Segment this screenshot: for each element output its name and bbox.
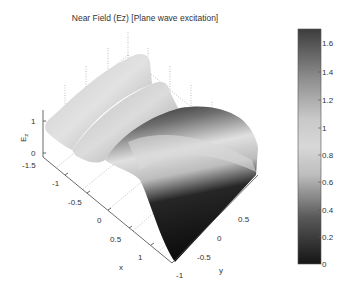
colorbar-tick-0: 0 bbox=[322, 260, 326, 269]
x-axis-label: x bbox=[119, 263, 123, 272]
y-axis-label: y bbox=[219, 266, 223, 275]
y-tick-m1: -1 bbox=[176, 271, 184, 280]
surface-plot: 1 0 Ez -1.5 -1 -0.5 0 0.5 1 x -1 -0.5 0 … bbox=[0, 0, 353, 293]
y-tick-0: 0 bbox=[217, 234, 222, 243]
x-tick-m1.5: -1.5 bbox=[22, 161, 36, 170]
colorbar-tick-0.2: 0.2 bbox=[322, 233, 333, 242]
x-tick-0: 0 bbox=[97, 216, 102, 225]
colorbar-tick-0.8: 0.8 bbox=[322, 151, 333, 160]
z-axis-label: Ez bbox=[19, 134, 29, 142]
colorbar-tick-1.6: 1.6 bbox=[322, 39, 333, 48]
colorbar-tick-1: 1 bbox=[322, 124, 326, 133]
colorbar-tick-0.4: 0.4 bbox=[322, 206, 333, 215]
z-tick-1: 1 bbox=[31, 117, 36, 126]
x-tick-0.5: 0.5 bbox=[110, 235, 122, 244]
x-tick-m1: -1 bbox=[52, 179, 60, 188]
colorbar-tick-0.6: 0.6 bbox=[322, 178, 333, 187]
y-tick-0.5: 0.5 bbox=[238, 215, 250, 224]
x-tick-1: 1 bbox=[138, 253, 143, 262]
y-tick-m0.5: -0.5 bbox=[197, 253, 211, 262]
colorbar-tick-1.4: 1.4 bbox=[322, 68, 333, 77]
x-tick-m0.5: -0.5 bbox=[68, 198, 82, 207]
z-tick-0: 0 bbox=[31, 149, 36, 158]
colorbar-tick-1.2: 1.2 bbox=[322, 96, 333, 105]
colorbar bbox=[298, 29, 321, 264]
